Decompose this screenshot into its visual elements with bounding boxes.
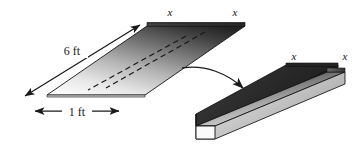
flat-sheet-top-edge — [147, 23, 245, 27]
width-dimension-arrow: 1 ft — [35, 103, 119, 119]
flat-sheet-x-label-right: x — [232, 6, 238, 18]
flat-sheet-x-label-left: x — [167, 6, 173, 18]
gutter-x-label-near: x — [291, 50, 297, 62]
flat-sheet-face — [47, 26, 245, 95]
figure-canvas: x x 6 ft 1 ft — [0, 0, 360, 166]
gutter-figure: x x 6 ft 1 ft — [0, 0, 360, 166]
fold-transform-arrow — [182, 67, 243, 88]
width-dimension-label: 1 ft — [69, 105, 86, 119]
length-dimension-label: 6 ft — [64, 44, 81, 58]
gutter-back-wall-rim — [286, 63, 338, 67]
flat-sheet-left-edge — [47, 95, 145, 97]
gutter-x-label-far: x — [342, 50, 348, 62]
folded-gutter: x x — [196, 50, 348, 139]
gutter-front-wall-rim — [327, 68, 345, 72]
